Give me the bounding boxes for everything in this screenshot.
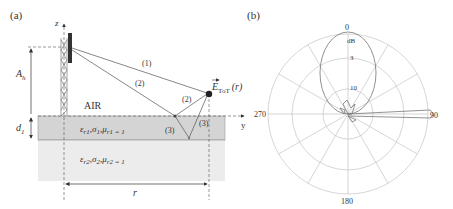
path-3-label: (3) <box>165 126 175 135</box>
panel-a-label: (a) <box>10 9 23 22</box>
distance-label: r <box>133 187 137 198</box>
path-2b-label: (2) <box>182 95 192 104</box>
path-1-label: (1) <box>142 59 152 68</box>
air-label: AIR <box>84 100 102 111</box>
angle-90-label: 90 <box>430 111 438 120</box>
db-unit-label: dB <box>347 37 356 45</box>
ring-3-label: 3 <box>350 54 354 62</box>
y-axis-label: y <box>241 120 246 130</box>
path-2-label: (2) <box>135 79 145 88</box>
panel-b: (b) 0 dB 3 10 90 180 270 <box>247 9 438 206</box>
angle-180-label: 180 <box>341 197 353 206</box>
panel-a: (a) y z Ah d1 <box>10 9 246 200</box>
angle-270-label: 270 <box>254 110 266 119</box>
panel-b-label: (b) <box>247 9 260 22</box>
total-field-label: EToT(r) <box>211 81 243 95</box>
soil-layer-2 <box>38 140 225 181</box>
ring-10-label: 10 <box>350 84 358 92</box>
path-3b-label: (3) <box>199 119 209 128</box>
angle-0-label: 0 <box>345 23 349 32</box>
antenna-panel <box>68 33 72 63</box>
height-label: Ah <box>15 68 26 82</box>
z-axis-label: z <box>54 18 59 28</box>
figure-canvas: (a) y z Ah d1 <box>0 0 453 209</box>
depth-label: d1 <box>16 122 25 136</box>
radiation-pattern <box>320 32 433 122</box>
